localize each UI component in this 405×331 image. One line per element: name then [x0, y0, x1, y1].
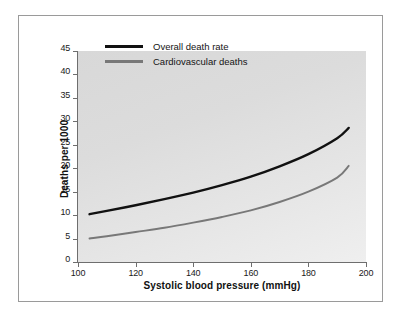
line-cardiovascular-deaths [90, 166, 349, 239]
line-overall-death-rate [90, 128, 349, 214]
chart-curves [19, 16, 384, 303]
figure-frame: 454035302520151050 100120140160180200 De… [18, 15, 383, 302]
